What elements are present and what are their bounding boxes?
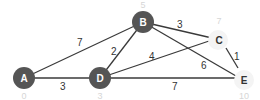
edge-d-c	[100, 40, 212, 78]
weight-d-b: 2	[111, 46, 117, 57]
node-d-label: D	[96, 73, 103, 84]
node-e-label: E	[241, 75, 248, 86]
node-d[interactable]: D 3	[89, 67, 111, 100]
node-a[interactable]: A 0	[13, 67, 35, 100]
weight-b-c: 3	[177, 19, 183, 30]
weight-a-b: 7	[77, 37, 83, 48]
weight-b-e: 6	[201, 60, 207, 71]
node-c-label: C	[215, 35, 222, 46]
weight-d-e: 7	[172, 81, 178, 92]
node-b[interactable]: B 5	[132, 0, 154, 33]
node-d-distance: 3	[97, 91, 102, 100]
node-c-distance: 7	[216, 16, 221, 26]
node-e[interactable]: E 10	[234, 70, 254, 100]
weight-d-c: 4	[149, 51, 155, 62]
node-a-distance: 0	[21, 91, 26, 100]
weight-a-d: 3	[60, 81, 66, 92]
node-a-label: A	[20, 73, 27, 84]
node-b-label: B	[139, 17, 146, 28]
graph-diagram: 7 3 2 4 7 3 6 1 A 0 D 3 B 5 C 7 E 10	[0, 0, 260, 100]
node-b-distance: 5	[140, 0, 145, 10]
node-e-distance: 10	[239, 91, 249, 100]
weight-c-e: 1	[234, 51, 240, 62]
node-c[interactable]: C 7	[208, 16, 228, 50]
